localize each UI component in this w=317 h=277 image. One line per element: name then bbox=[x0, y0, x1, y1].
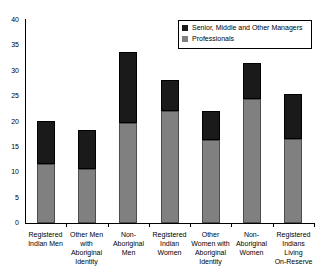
bar-4 bbox=[161, 80, 179, 223]
legend-label-professionals: Professionals bbox=[192, 35, 234, 43]
bar-segment-managers bbox=[243, 63, 261, 99]
x-tick-mark bbox=[314, 223, 315, 227]
y-axis-line bbox=[25, 19, 26, 224]
bar-segment-professionals bbox=[78, 169, 96, 223]
bar-segment-managers bbox=[78, 130, 96, 169]
bar-segment-professionals bbox=[284, 139, 302, 223]
x-tick-mark bbox=[149, 223, 150, 227]
x-tick-mark bbox=[231, 223, 232, 227]
x-tick-mark bbox=[108, 223, 109, 227]
bar-segment-managers bbox=[161, 80, 179, 111]
bar-segment-professionals bbox=[161, 111, 179, 223]
y-tick-label: 35 bbox=[1, 41, 19, 48]
bar-segment-professionals bbox=[119, 123, 137, 223]
y-tick-label: 5 bbox=[1, 194, 19, 201]
bar-7 bbox=[284, 94, 302, 223]
x-axis-label: Registered Indian Men bbox=[25, 230, 66, 248]
x-axis-label: Non- Aboriginal Men bbox=[108, 230, 149, 257]
y-tick-label: 25 bbox=[1, 92, 19, 99]
x-tick-mark bbox=[273, 223, 274, 227]
legend-swatch-professionals-icon bbox=[182, 36, 188, 42]
bar-segment-professionals bbox=[243, 99, 261, 223]
bar-2 bbox=[78, 130, 96, 223]
x-axis-label: Other Women with Aboriginal Identity bbox=[190, 230, 231, 266]
x-axis-label: Other Men with Aboriginal Identity bbox=[66, 230, 107, 266]
bar-segment-managers bbox=[284, 94, 302, 139]
x-axis-label: Registered Indian Women bbox=[149, 230, 190, 257]
x-axis-label: Non- Aboriginal Women bbox=[231, 230, 272, 257]
bar-6 bbox=[243, 63, 261, 223]
y-tick-label: 20 bbox=[1, 118, 19, 125]
legend-item-managers: Senior, Middle and Other Managers bbox=[182, 23, 308, 33]
y-tick-label: 30 bbox=[1, 67, 19, 74]
chart-legend: Senior, Middle and Other Managers Profes… bbox=[178, 20, 312, 49]
bar-5 bbox=[202, 111, 220, 223]
y-tick-label: 40 bbox=[1, 16, 19, 23]
bar-segment-professionals bbox=[37, 164, 55, 223]
y-tick-label: 0 bbox=[1, 219, 19, 226]
x-tick-mark bbox=[190, 223, 191, 227]
bar-segment-professionals bbox=[202, 140, 220, 223]
stacked-bar-chart: 0510152025303540 Registered Indian MenOt… bbox=[0, 0, 317, 277]
legend-item-professionals: Professionals bbox=[182, 34, 308, 44]
bar-segment-managers bbox=[37, 121, 55, 164]
x-axis-line bbox=[25, 223, 314, 224]
x-tick-mark bbox=[66, 223, 67, 227]
x-axis-label: Registered Indians Living On-Reserve bbox=[273, 230, 314, 266]
y-tick-label: 10 bbox=[1, 168, 19, 175]
y-tick-label: 15 bbox=[1, 143, 19, 150]
bar-3 bbox=[119, 52, 137, 223]
bar-segment-managers bbox=[202, 111, 220, 140]
legend-swatch-managers-icon bbox=[182, 25, 188, 31]
bar-1 bbox=[37, 121, 55, 223]
bar-segment-managers bbox=[119, 52, 137, 123]
legend-label-managers: Senior, Middle and Other Managers bbox=[192, 24, 303, 32]
